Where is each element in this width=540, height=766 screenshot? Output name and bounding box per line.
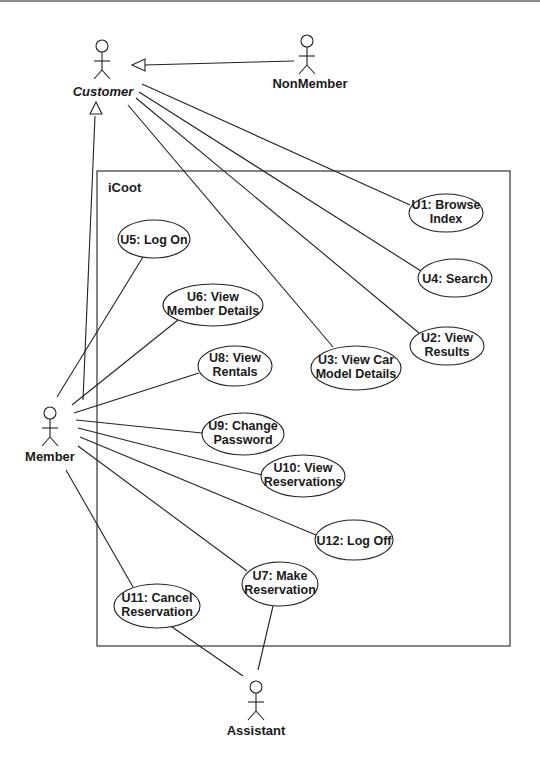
use-case-u2-view-results[interactable]: U2: View Results [410, 327, 484, 365]
use-case-label: Results [424, 345, 469, 359]
use-case-u10-view-reservations[interactable]: U10: View Reservations [261, 455, 345, 497]
association-member-u8 [74, 373, 199, 413]
actor-label: Assistant [227, 723, 286, 738]
use-case-label: U3: View Car [318, 353, 394, 367]
use-case-label: U4: Search [422, 272, 487, 286]
use-case-u9-change-password[interactable]: U9: Change Password [202, 413, 284, 455]
use-case-label: Reservation [121, 605, 193, 619]
association-member-u5 [57, 257, 143, 397]
association-assistant-u11 [172, 627, 243, 676]
actor-member[interactable]: Member [25, 407, 75, 464]
use-case-label: U10: View [274, 461, 333, 475]
actor-nonmember[interactable]: NonMember [272, 35, 347, 91]
use-case-label: Rentals [212, 365, 257, 379]
association-member-u9 [76, 420, 202, 433]
use-case-u7-make-reservation[interactable]: U7: Make Reservation [242, 562, 318, 606]
use-case-u3-view-car-model-details[interactable]: U3: View Car Model Details [311, 346, 401, 390]
use-case-label: Member Details [167, 304, 259, 318]
use-case-diagram: iCoot U1: Browse Index [0, 0, 540, 766]
actor-label: Member [25, 449, 75, 464]
actor-label: NonMember [272, 76, 347, 91]
use-case-label: Index [430, 212, 463, 226]
use-case-label: Reservation [244, 583, 316, 597]
actor-assistant[interactable]: Assistant [227, 681, 286, 738]
system-label: iCoot [108, 180, 142, 195]
use-case-label: U12: Log Off [317, 534, 393, 548]
use-case-label: U2: View [421, 331, 473, 345]
use-case-label: U7: Make [253, 569, 308, 583]
use-case-u12-log-off[interactable]: U12: Log Off [315, 520, 393, 560]
use-case-label: U11: Cancel [122, 591, 193, 605]
association-member-u11 [66, 470, 133, 587]
use-case-u8-view-rentals[interactable]: U8: View Rentals [198, 346, 272, 386]
actor-label: Customer [73, 84, 135, 99]
use-case-label: U1: Browse [412, 198, 481, 212]
use-case-label: U5: Log On [120, 233, 187, 247]
association-assistant-u7 [258, 606, 273, 670]
generalization-member-customer [83, 102, 102, 400]
stick-figure-icon [248, 681, 264, 720]
use-case-u5-log-on[interactable]: U5: Log On [118, 220, 190, 258]
use-case-label: U8: View [209, 351, 261, 365]
use-case-u11-cancel-reservation[interactable]: U11: Cancel Reservation [114, 584, 200, 628]
use-case-label: U6: View [187, 290, 239, 304]
hollow-triangle-arrowhead-icon [90, 102, 102, 114]
use-case-label: U9: Change [208, 419, 278, 433]
use-case-label: Model Details [316, 367, 397, 381]
hollow-triangle-arrowhead-icon [132, 59, 145, 71]
use-case-label: Reservations [264, 475, 343, 489]
use-case-u6-view-member-details[interactable]: U6: View Member Details [163, 284, 263, 326]
use-case-u4-search[interactable]: U4: Search [418, 259, 492, 297]
stick-figure-icon [94, 40, 110, 79]
actor-customer[interactable]: Customer [73, 40, 135, 99]
generalization-nonmember-customer [132, 59, 294, 71]
stick-figure-icon [42, 407, 58, 446]
association-customer-u1 [142, 84, 410, 205]
use-case-u1-browse-index[interactable]: U1: Browse Index [409, 194, 483, 232]
stick-figure-icon [299, 35, 315, 74]
association-member-u6 [72, 320, 178, 405]
use-case-label: Password [213, 433, 272, 447]
